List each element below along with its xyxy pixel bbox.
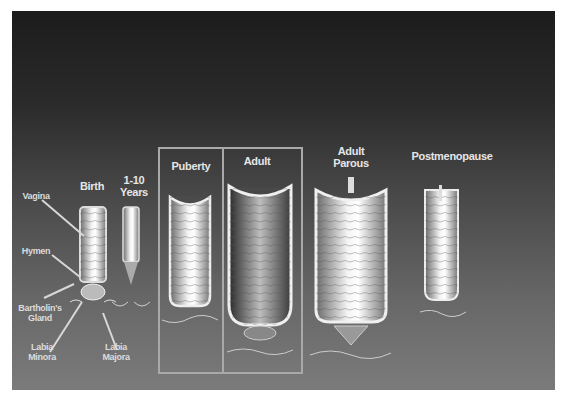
anatomy-label-majora-line2: Majora xyxy=(96,352,136,362)
stage-label-1-10-line1: 1-10 xyxy=(116,174,152,186)
stage-label-parous-line2: Parous xyxy=(318,157,384,169)
stage-label-adult: Adult xyxy=(226,155,288,167)
stage-label-puberty: Puberty xyxy=(160,160,222,172)
stage-label-1-10-years: 1-10 Years xyxy=(116,174,152,198)
anatomy-label-majora-line1: Labia xyxy=(96,342,136,352)
stage-label-adult-parous: Adult Parous xyxy=(318,145,384,169)
birth-organ xyxy=(70,207,116,302)
stage-label-parous-line1: Adult xyxy=(318,145,384,157)
stage-label-1-10-line2: Years xyxy=(116,186,152,198)
puberty-highlight-box xyxy=(158,147,224,374)
anatomy-label-bartholin-line2: Gland xyxy=(14,313,66,323)
postmenopause-organ xyxy=(420,185,466,317)
anatomy-label-bartholin-line1: Bartholin's xyxy=(14,303,66,313)
anatomy-label-hymen: Hymen xyxy=(16,246,56,256)
anatomy-label-minora-line2: Minora xyxy=(22,352,62,362)
anatomy-label-minora-line1: Labia xyxy=(22,342,62,352)
stage-label-birth: Birth xyxy=(74,180,110,192)
anatomy-label-labia-minora: Labia Minora xyxy=(22,342,62,362)
anatomy-label-vagina: Vagina xyxy=(16,191,56,201)
anatomy-label-labia-majora: Labia Majora xyxy=(96,342,136,362)
age-1-10-organ xyxy=(112,207,150,306)
stage-label-postmenopause: Postmenopause xyxy=(402,150,502,162)
adult-highlight-box xyxy=(222,147,303,374)
adult-parous-organ xyxy=(310,177,391,359)
anatomy-label-bartholins-gland: Bartholin's Gland xyxy=(14,303,66,323)
